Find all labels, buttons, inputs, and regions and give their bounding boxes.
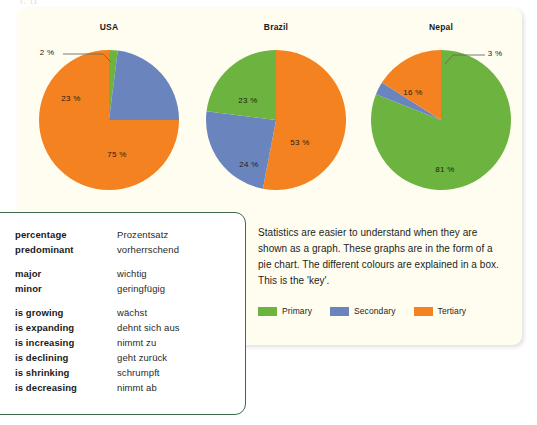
vocabulary-row: predominantvorherrschend: [15, 242, 237, 257]
cut-off-header-text: c g: [20, 0, 37, 4]
vocabulary-term-en: is shrinking: [15, 365, 117, 380]
slice-percentage-label: 53 %: [290, 138, 309, 147]
vocabulary-group: majorwichtigminorgeringfügig: [15, 266, 237, 296]
vocabulary-term-de: nimmt zu: [117, 335, 156, 350]
vocabulary-term-en: major: [15, 266, 117, 281]
chart-title-brazil: Brazil: [192, 22, 360, 34]
legend-item-tertiary: Tertiary: [414, 306, 467, 316]
legend-item-secondary: Secondary: [330, 306, 396, 316]
slice-percentage-label: 81 %: [435, 165, 454, 174]
legend-swatch-icon: [414, 307, 433, 316]
vocabulary-term-en: is declining: [15, 350, 117, 365]
slice-percentage-label: 24 %: [239, 160, 258, 169]
pie-chart-brazil: Brazil53 %24 %23 %: [192, 22, 360, 202]
vocabulary-term-en: is increasing: [15, 335, 117, 350]
vocabulary-term-en: percentage: [15, 227, 117, 242]
vocabulary-row: is growingwächst: [15, 305, 237, 320]
pie-svg: [25, 36, 193, 201]
chart-legend: PrimarySecondaryTertiary: [258, 306, 503, 316]
vocabulary-row: percentageProzentsatz: [15, 227, 237, 242]
vocabulary-term-en: predominant: [15, 242, 117, 257]
pie-charts-row: USA2 %23 %75 %Brazil53 %24 %23 %Nepal81 …: [17, 22, 522, 202]
explanation-text: Statistics are easier to understand when…: [258, 225, 503, 289]
legend-swatch-icon: [330, 307, 349, 316]
pie-chart-nepal: Nepal81 %3 %16 %: [357, 22, 525, 202]
vocabulary-row: is expandingdehnt sich aus: [15, 320, 237, 335]
vocabulary-row: minorgeringfügig: [15, 281, 237, 296]
pie-area: 2 %23 %75 %: [25, 36, 193, 201]
legend-label: Secondary: [354, 306, 396, 316]
vocabulary-term-de: wächst: [117, 305, 147, 320]
vocabulary-term-en: is growing: [15, 305, 117, 320]
vocabulary-row: is decreasingnimmt ab: [15, 380, 237, 395]
vocabulary-term-en: is decreasing: [15, 380, 117, 395]
slice-percentage-label: 2 %: [40, 48, 55, 57]
vocabulary-row: is shrinkingschrumpft: [15, 365, 237, 380]
chart-title-usa: USA: [25, 22, 193, 34]
pie-svg: [192, 36, 360, 201]
vocabulary-row: majorwichtig: [15, 266, 237, 281]
vocabulary-term-de: vorherrschend: [117, 242, 179, 257]
vocabulary-term-de: nimmt ab: [117, 380, 157, 395]
vocabulary-box: percentageProzentsatzpredominantvorherrs…: [0, 212, 246, 415]
pie-area: 53 %24 %23 %: [192, 36, 360, 201]
vocabulary-group: is growingwächstis expandingdehnt sich a…: [15, 305, 237, 395]
legend-label: Tertiary: [438, 306, 467, 316]
pie-chart-usa: USA2 %23 %75 %: [25, 22, 193, 202]
slice-percentage-label: 23 %: [238, 96, 257, 105]
pie-slice-secondary: [109, 51, 179, 120]
legend-label: Primary: [282, 306, 312, 316]
vocabulary-term-en: minor: [15, 281, 117, 296]
legend-item-primary: Primary: [258, 306, 312, 316]
chart-title-nepal: Nepal: [357, 22, 525, 34]
slice-percentage-label: 23 %: [61, 94, 80, 103]
vocabulary-term-de: schrumpft: [117, 365, 160, 380]
vocabulary-term-en: is expanding: [15, 320, 117, 335]
vocabulary-term-de: wichtig: [117, 266, 147, 281]
vocabulary-term-de: Prozentsatz: [117, 227, 168, 242]
vocabulary-group: percentageProzentsatzpredominantvorherrs…: [15, 227, 237, 257]
slice-percentage-label: 3 %: [488, 49, 503, 58]
vocabulary-term-de: dehnt sich aus: [117, 320, 180, 335]
pie-area: 81 %3 %16 %: [357, 36, 525, 201]
pie-svg: [357, 36, 525, 201]
vocabulary-term-de: geht zurück: [117, 350, 167, 365]
pie-slice-primary: [207, 50, 276, 120]
vocabulary-row: is increasingnimmt zu: [15, 335, 237, 350]
explanation-panel: Statistics are easier to understand when…: [258, 225, 503, 316]
slice-percentage-label: 75 %: [107, 150, 126, 159]
vocabulary-list: percentageProzentsatzpredominantvorherrs…: [15, 227, 237, 404]
vocabulary-term-de: geringfügig: [117, 281, 165, 296]
legend-swatch-icon: [258, 307, 277, 316]
slice-percentage-label: 16 %: [403, 88, 422, 97]
vocabulary-row: is declininggeht zurück: [15, 350, 237, 365]
